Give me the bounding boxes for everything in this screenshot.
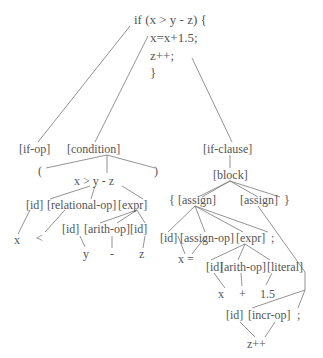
node-x-2: x [218, 288, 224, 301]
node-lbrace: { [169, 194, 175, 207]
node-lt: < [36, 232, 43, 245]
node-expr-1: [expr] [118, 199, 147, 212]
node-cond-expr: x > y - z [74, 175, 114, 188]
node-x-equals: x = [178, 253, 194, 266]
node-id-4: [id] [160, 232, 177, 245]
node-assign-2: [assign] [240, 194, 278, 207]
node-rparen: ) [154, 165, 158, 178]
node-minus: - [110, 248, 114, 261]
node-arith-op-2: [arith-op] [220, 261, 266, 274]
root-code-line-4: } [150, 66, 156, 79]
node-arith-op-1: [arith-op] [84, 223, 130, 236]
node-literal-value: 1.5 [260, 288, 275, 301]
root-code-line-2: x=x+1.5; [150, 31, 198, 44]
node-z-increment: z++ [247, 338, 266, 351]
node-incr-op: [incr-op] [248, 309, 290, 322]
node-id-2: [id] [62, 223, 79, 236]
node-id-6: [id] [226, 309, 243, 322]
node-z: z [139, 248, 144, 261]
node-block: [block] [213, 169, 248, 182]
node-expr-2: [expr] [236, 232, 265, 245]
parse-tree-diagram: if (x > y - z) { x=x+1.5; z++; } [if-op]… [0, 0, 323, 358]
node-rbrace: } [284, 194, 290, 207]
node-if-op: [if-op] [19, 143, 50, 156]
root-code-line-1: if (x > y - z) { [134, 13, 207, 26]
node-x-1: x [14, 234, 20, 247]
node-plus: + [239, 288, 246, 301]
node-semicolon-1: ; [271, 232, 274, 245]
node-literal: [literal] [267, 261, 303, 274]
node-assign-op: [assign-op] [180, 232, 234, 245]
root-code-line-3: z++; [150, 49, 174, 62]
node-semicolon-2: ; [297, 309, 300, 322]
node-if-clause: [if-clause] [203, 143, 252, 156]
node-condition: [condition] [67, 143, 120, 156]
node-assign-1: [assign] [178, 194, 216, 207]
node-id-1: [id] [26, 199, 43, 212]
node-lparen: ( [38, 165, 42, 178]
node-y: y [83, 248, 89, 261]
node-id-3: [id] [130, 223, 147, 236]
node-relational-op: [relational-op] [47, 199, 116, 212]
